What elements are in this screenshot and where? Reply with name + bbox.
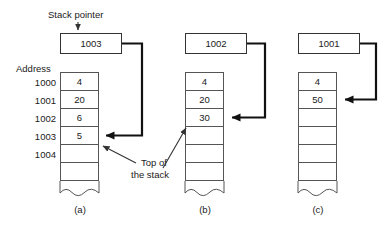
top-of-stack-label-line1: Top of: [141, 158, 167, 168]
torn-edge-c: [298, 181, 337, 196]
stack-cell-b-4: [185, 144, 224, 163]
pointer-connector-b: [232, 44, 265, 118]
stack-cell-b-3: [185, 126, 224, 145]
stack-cell-b-0: 4: [185, 72, 224, 91]
stack-pointer-diagram: Stack pointer Address 1000 1001 1002 100…: [0, 0, 390, 235]
address-value-1000: 1000: [18, 78, 56, 88]
torn-edge-a: [60, 181, 99, 196]
panel-caption-b: (b): [175, 205, 235, 215]
panel-caption-c: (c): [288, 205, 348, 215]
address-value-1002: 1002: [18, 114, 56, 124]
torn-edge-b: [185, 181, 224, 196]
stack-cell-a-4: [60, 144, 99, 163]
stack-cell-c-4: [298, 144, 337, 163]
stack-cell-b-1: 20: [185, 90, 224, 109]
address-value-1003: 1003: [18, 132, 56, 142]
top-of-stack-leader-a: [103, 146, 136, 163]
address-value-1001: 1001: [18, 96, 56, 106]
top-of-stack-label-line2: the stack: [131, 170, 169, 180]
stack-cell-c-2: [298, 108, 337, 127]
address-column-label: Address: [16, 64, 51, 74]
stack-cell-a-3: 5: [60, 126, 99, 145]
stack-cell-a-1: 20: [60, 90, 99, 109]
stack-cell-c-1: 50: [298, 90, 337, 109]
stack-cell-a-2: 6: [60, 108, 99, 127]
stack-cell-c-5: [298, 162, 337, 181]
panel-caption-a: (a): [50, 205, 110, 215]
stack-pointer-box-b: 1002: [185, 33, 247, 54]
stack-pointer-box-c: 1001: [298, 33, 360, 54]
address-value-1004: 1004: [18, 150, 56, 160]
stack-pointer-label: Stack pointer: [48, 10, 103, 20]
stack-cell-a-0: 4: [60, 72, 99, 91]
stack-cell-c-0: 4: [298, 72, 337, 91]
pointer-connector-a: [106, 44, 142, 136]
stack-pointer-box-a: 1003: [60, 33, 122, 54]
stack-cell-b-2: 30: [185, 108, 224, 127]
stack-cell-b-5: [185, 162, 224, 181]
stack-cell-c-3: [298, 126, 337, 145]
stack-cell-a-5: [60, 162, 99, 181]
